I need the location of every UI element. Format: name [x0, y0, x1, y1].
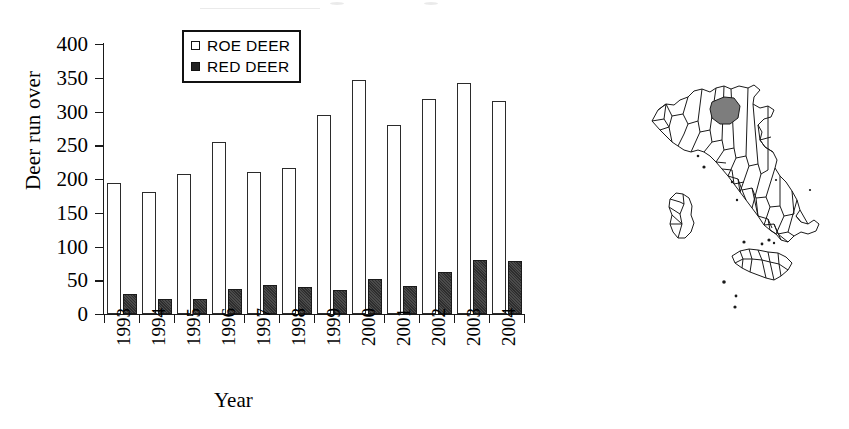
y-tick-label: 50: [32, 270, 88, 291]
x-tick-mark: [489, 314, 490, 323]
x-tick-mark: [419, 314, 420, 323]
x-tick-mark: [279, 314, 280, 323]
bar-group: [492, 101, 522, 314]
x-tick-label: 2001: [394, 308, 413, 378]
x-tick-label: 1994: [149, 308, 168, 378]
bar-group: [177, 174, 207, 314]
bar-roe-deer: [177, 174, 191, 314]
x-axis-title: Year: [214, 388, 253, 413]
bar-roe-deer: [317, 115, 331, 314]
x-tick-label: 2004: [499, 308, 518, 378]
y-tick-label: 300: [32, 101, 88, 122]
bar-group: [352, 80, 382, 314]
y-tick-mark: [95, 179, 104, 180]
x-tick-label: 1997: [254, 308, 273, 378]
bar-red-deer: [473, 260, 487, 314]
x-tick-mark: [209, 314, 210, 323]
bar-roe-deer: [282, 168, 296, 314]
bar-group: [107, 183, 137, 314]
x-tick-mark: [349, 314, 350, 323]
x-tick-mark: [174, 314, 175, 323]
legend-item-red-deer: RED DEER: [191, 56, 290, 77]
x-tick-mark: [314, 314, 315, 323]
y-tick-label: 250: [32, 135, 88, 156]
bar-group: [212, 142, 242, 314]
x-tick-label: 1996: [219, 308, 238, 378]
filled-square-icon: [191, 62, 200, 71]
y-tick-label: 400: [32, 34, 88, 55]
bar-roe-deer: [107, 183, 121, 314]
open-square-icon: [191, 41, 200, 50]
x-tick-label: 2000: [359, 308, 378, 378]
italy-map-svg: [636, 64, 841, 322]
x-tick-label: 1993: [114, 308, 133, 378]
x-tick-mark: [244, 314, 245, 323]
bar-roe-deer: [457, 83, 471, 314]
y-tick-label: 150: [32, 202, 88, 223]
bar-roe-deer: [387, 125, 401, 314]
bar-group: [282, 168, 312, 314]
y-tick-mark: [95, 78, 104, 79]
figure-root: Deer run over 050100150200250300350400 Y…: [0, 0, 849, 429]
x-tick-mark: [104, 314, 105, 323]
bar-roe-deer: [492, 101, 506, 314]
y-tick-mark: [95, 145, 104, 146]
bar-red-deer: [508, 261, 522, 314]
x-tick-label: 2003: [464, 308, 483, 378]
y-tick-mark: [95, 314, 104, 315]
bar-roe-deer: [142, 192, 156, 314]
y-tick-mark: [95, 44, 104, 45]
x-tick-mark: [384, 314, 385, 323]
y-axis-tick-labels: 050100150200250300350400: [32, 0, 88, 429]
bar-group: [142, 192, 172, 314]
x-tick-label: 2002: [429, 308, 448, 378]
x-tick-mark: [454, 314, 455, 323]
island-dots: [697, 155, 811, 309]
bar-group: [247, 172, 277, 314]
plot-area: [104, 44, 524, 314]
y-tick-label: 0: [32, 304, 88, 325]
bar-chart: Deer run over 050100150200250300350400 Y…: [0, 0, 620, 429]
highlighted-province: [710, 97, 740, 124]
x-tick-label: 1995: [184, 308, 203, 378]
y-tick-label: 350: [32, 67, 88, 88]
y-tick-label: 200: [32, 169, 88, 190]
bar-roe-deer: [422, 99, 436, 314]
legend-item-roe-deer: ROE DEER: [191, 35, 290, 56]
bar-roe-deer: [352, 80, 366, 314]
bar-group: [422, 99, 452, 314]
italy-map: [636, 64, 841, 322]
bar-roe-deer: [247, 172, 261, 314]
y-tick-mark: [95, 280, 104, 281]
legend-label-roe-deer: ROE DEER: [207, 37, 290, 55]
y-tick-mark: [95, 247, 104, 248]
chart-legend: ROE DEER RED DEER: [182, 30, 301, 83]
bar-group: [457, 83, 487, 314]
bar-roe-deer: [212, 142, 226, 314]
y-tick-mark: [95, 112, 104, 113]
y-tick-mark: [95, 213, 104, 214]
bar-group: [317, 115, 347, 314]
x-tick-mark: [139, 314, 140, 323]
x-tick-label: 1999: [324, 308, 343, 378]
y-tick-label: 100: [32, 236, 88, 257]
x-tick-mark: [524, 314, 525, 323]
legend-label-red-deer: RED DEER: [207, 58, 290, 76]
bar-group: [387, 125, 417, 314]
x-tick-label: 1998: [289, 308, 308, 378]
